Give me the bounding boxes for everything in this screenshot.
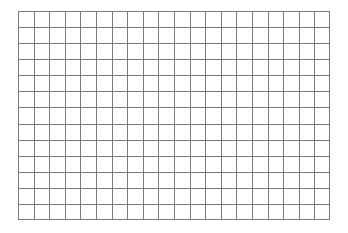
- grid-lines: [18, 11, 330, 220]
- grid-paper: [18, 11, 330, 220]
